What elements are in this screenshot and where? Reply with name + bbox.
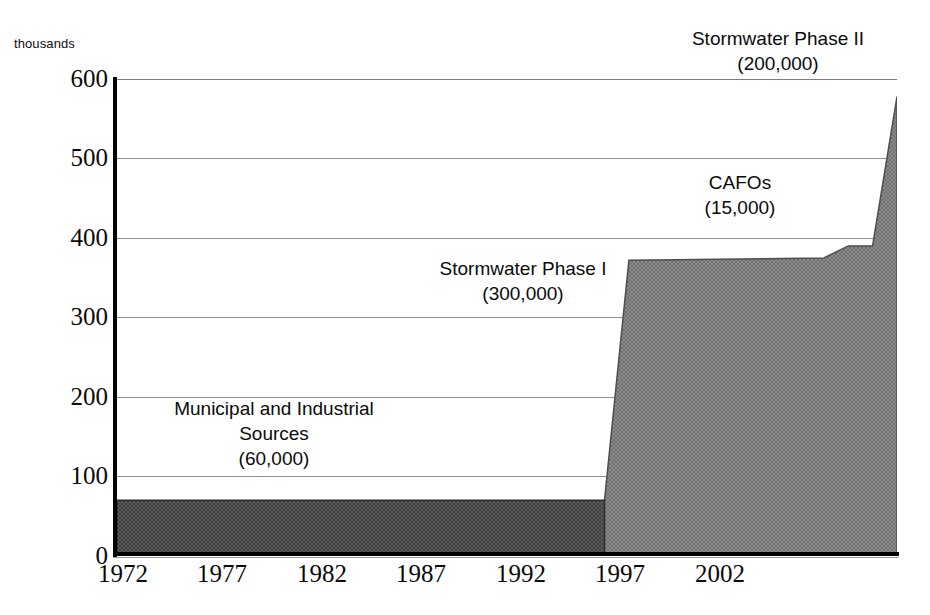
y-tick-400: 400 xyxy=(12,224,108,252)
annotation-stormwater-phase-i: Stormwater Phase I (300,000) xyxy=(392,256,654,306)
annotation-municipal-industrial-label-2: Sources xyxy=(138,421,410,446)
annotation-cafos-label: CAFOs xyxy=(640,170,840,195)
annotation-cafos: CAFOs (15,000) xyxy=(640,170,840,220)
chart-figure: thousands 600 500 400 300 200 100 0 xyxy=(0,0,930,615)
annotation-municipal-industrial-label-1: Municipal and Industrial xyxy=(138,396,410,421)
annotation-stormwater-phase-ii-label: Stormwater Phase II xyxy=(628,26,928,51)
plot-area xyxy=(117,79,897,556)
annotation-stormwater-phase-ii-value: (200,000) xyxy=(628,51,928,76)
x-tick-2002: 2002 xyxy=(660,560,780,588)
annotation-stormwater-phase-ii: Stormwater Phase II (200,000) xyxy=(628,26,928,76)
y-tick-600: 600 xyxy=(12,65,108,93)
annotation-cafos-value: (15,000) xyxy=(640,195,840,220)
annotation-stormwater-phase-i-value: (300,000) xyxy=(392,281,654,306)
annotation-municipal-industrial: Municipal and Industrial Sources (60,000… xyxy=(138,396,410,471)
y-tick-500: 500 xyxy=(12,144,108,172)
x-axis-line xyxy=(113,552,899,556)
baseline-band xyxy=(117,500,605,556)
x-axis-underline xyxy=(113,557,899,558)
annotation-stormwater-phase-i-label: Stormwater Phase I xyxy=(392,256,654,281)
x-axis-tick-labels: 1972 1977 1982 1987 1992 1997 2002 xyxy=(0,560,930,605)
annotation-municipal-industrial-value: (60,000) xyxy=(138,446,410,471)
y-tick-200: 200 xyxy=(12,383,108,411)
area-series xyxy=(117,79,897,556)
y-tick-300: 300 xyxy=(12,303,108,331)
y-axis-tick-labels: 600 500 400 300 200 100 0 xyxy=(0,0,108,615)
area-polygon xyxy=(117,97,897,557)
y-axis-line xyxy=(113,77,117,558)
y-tick-100: 100 xyxy=(12,462,108,490)
